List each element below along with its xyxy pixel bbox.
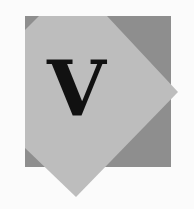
- logo: V: [0, 0, 194, 209]
- logo-letter: V: [47, 50, 105, 130]
